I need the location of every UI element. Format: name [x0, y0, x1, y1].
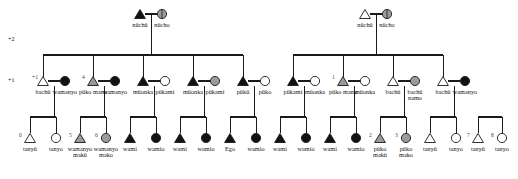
founder-female-term-1: nücho [370, 22, 404, 28]
founder-male-0[interactable] [135, 10, 146, 19]
gen0-female-2-1[interactable] [151, 133, 160, 142]
gen1-female-6[interactable] [360, 76, 369, 85]
gen0-female-8-1[interactable] [451, 133, 460, 142]
gen0-male-9-0[interactable] [473, 134, 484, 143]
gen1-male-1[interactable] [88, 77, 99, 86]
gen0-term-4-1: wamio [243, 146, 270, 152]
gen0-male-5-0[interactable] [275, 134, 286, 143]
gen0-term-6-0: wami [317, 146, 344, 152]
gen1-female-term-6: müonka [350, 89, 380, 95]
founder-female-term-0: nücho [145, 22, 179, 28]
gen0-term-1-1: wamanyo mako [93, 146, 120, 159]
gen0-male-6-0[interactable] [325, 134, 336, 143]
pedigree-diagram: +2+1nüchünüchonüchünüchobachüwamanyo+1pü… [0, 0, 518, 179]
gen0-term-5-0: wami [267, 146, 294, 152]
gen0-female-4-1[interactable] [251, 133, 260, 142]
gen0-male-0-0[interactable] [25, 134, 36, 143]
gen0-ref-num-1-1: 6 [95, 132, 98, 138]
gen0-term-0-1: tanyo [43, 146, 70, 152]
gen0-term-0-0: tanyü [17, 146, 44, 152]
gen1-female-8[interactable] [460, 76, 469, 85]
gen1-male-6[interactable] [338, 77, 349, 86]
gen0-term-2-0: wami [117, 146, 144, 152]
gen0-term-6-1: wamio [343, 146, 370, 152]
gen0-term-4-0: Ego [217, 146, 244, 152]
gen1-female-term-8: wamanyo [450, 89, 480, 95]
gen0-female-6-1[interactable] [351, 133, 360, 142]
gen0-male-3-0[interactable] [175, 134, 186, 143]
gen0-female-7-1[interactable] [401, 133, 410, 142]
gen0-term-3-0: wami [167, 146, 194, 152]
gen0-term-1-0: wamanyo makü [67, 146, 94, 159]
generation-label-0: +2 [8, 36, 14, 42]
gen1-female-4[interactable] [260, 76, 269, 85]
gen1-male-4[interactable] [238, 77, 249, 86]
gen1-female-term-1: wamanyo [100, 89, 130, 95]
generation-label-1: +1 [8, 77, 14, 83]
gen0-term-8-0: tanyü [417, 146, 444, 152]
gen1-female-term-4: püko [250, 89, 280, 95]
gen0-female-0-1[interactable] [51, 133, 60, 142]
gen1-male-3[interactable] [188, 77, 199, 86]
gen0-term-7-1: püko mako [393, 146, 420, 159]
gen1-male-2[interactable] [138, 77, 149, 86]
gen0-male-8-0[interactable] [425, 134, 436, 143]
gen0-term-5-1: wamio [293, 146, 320, 152]
gen0-term-9-0: tanyü [465, 146, 492, 152]
gen1-male-0[interactable] [38, 77, 49, 86]
gen0-male-1-0[interactable] [75, 134, 86, 143]
gen1-female-5[interactable] [310, 76, 319, 85]
founder-male-1[interactable] [360, 10, 371, 19]
gen0-male-4-0[interactable] [225, 134, 236, 143]
gen1-female-0[interactable] [60, 76, 69, 85]
gen0-ref-num-9-1: 8 [491, 132, 494, 138]
gen0-male-2-0[interactable] [125, 134, 136, 143]
gen0-female-3-1[interactable] [201, 133, 210, 142]
gen0-term-2-1: wamio [143, 146, 170, 152]
gen1-female-2[interactable] [160, 76, 169, 85]
gen1-male-8[interactable] [438, 77, 449, 86]
gen0-male-7-0[interactable] [375, 134, 386, 143]
gen1-female-7[interactable] [410, 76, 419, 85]
gen0-female-9-1[interactable] [497, 133, 506, 142]
gen1-male-7[interactable] [388, 77, 399, 86]
gen0-ref-num-7-1: 3 [395, 132, 398, 138]
gen1-female-1[interactable] [110, 76, 119, 85]
gen0-ref-num-7-0: 2 [369, 132, 372, 138]
gen1-female-term-2: pükami [150, 89, 180, 95]
gen1-ref-num-0: +1 [32, 74, 38, 80]
gen0-female-1-1[interactable] [101, 133, 110, 142]
gen1-male-5[interactable] [288, 77, 299, 86]
gen0-ref-num-9-0: 7 [467, 132, 470, 138]
gen1-female-term-7: bachü namo [400, 89, 430, 102]
gen0-term-3-1: wamio [193, 146, 220, 152]
gen0-ref-num-0-0: 0 [19, 132, 22, 138]
gen1-female-3[interactable] [210, 76, 219, 85]
gen0-term-9-1: tanyo [489, 146, 516, 152]
gen1-female-term-0: wamanyo [50, 89, 80, 95]
gen1-female-term-3: pükami [200, 89, 230, 95]
gen0-ref-num-1-0: 5 [69, 132, 72, 138]
gen0-female-5-1[interactable] [301, 133, 310, 142]
gen1-female-term-5: müonka [300, 89, 330, 95]
gen1-ref-num-6: 1 [332, 74, 335, 80]
gen0-term-7-0: püko makü [367, 146, 394, 159]
gen1-ref-num-1: 4 [82, 74, 85, 80]
